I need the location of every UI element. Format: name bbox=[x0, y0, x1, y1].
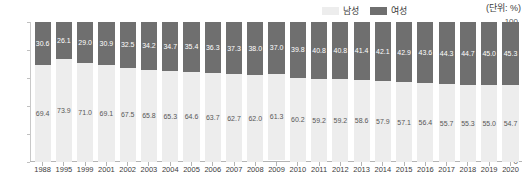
stacked-bar[interactable]: 37.362.7 bbox=[226, 22, 242, 162]
stacked-bar[interactable]: 26.173.9 bbox=[56, 22, 72, 162]
stacked-bar[interactable]: 41.458.6 bbox=[354, 22, 370, 162]
bar-segment-female[interactable]: 39.8 bbox=[290, 22, 306, 78]
bar-segment-male[interactable]: 71.0 bbox=[77, 63, 93, 162]
stacked-bar[interactable]: 42.157.9 bbox=[375, 22, 391, 162]
bar-segment-male[interactable]: 56.4 bbox=[417, 83, 433, 162]
bar-segment-female[interactable]: 38.0 bbox=[247, 22, 263, 75]
bar-segment-male[interactable]: 62.7 bbox=[226, 74, 242, 162]
bar-slot[interactable]: 45.354.7 bbox=[500, 22, 521, 162]
bar-segment-female[interactable]: 44.3 bbox=[439, 22, 455, 84]
stacked-bar[interactable]: 42.957.1 bbox=[396, 22, 412, 162]
bar-segment-female[interactable]: 44.7 bbox=[460, 22, 476, 85]
x-axis-tick-label: 2014 bbox=[372, 166, 393, 174]
plot-area: 020406080100 30.669.426.173.929.071.030.… bbox=[30, 22, 522, 162]
bar-segment-male[interactable]: 57.9 bbox=[375, 81, 391, 162]
stacked-bar[interactable]: 38.062.0 bbox=[247, 22, 263, 162]
bar-segment-female[interactable]: 30.9 bbox=[98, 22, 114, 65]
bar-slot[interactable]: 38.062.0 bbox=[245, 22, 266, 162]
bar-segment-female[interactable]: 29.0 bbox=[77, 22, 93, 63]
bar-segment-male[interactable]: 55.7 bbox=[439, 84, 455, 162]
stacked-bar[interactable]: 40.859.2 bbox=[332, 22, 348, 162]
bar-segment-male[interactable]: 73.9 bbox=[56, 59, 72, 162]
bar-segment-female[interactable]: 35.4 bbox=[183, 22, 199, 72]
bar-segment-male[interactable]: 59.2 bbox=[311, 79, 327, 162]
bar-segment-female[interactable]: 34.7 bbox=[162, 22, 178, 71]
bar-segment-male[interactable]: 65.3 bbox=[162, 71, 178, 162]
bar-slot[interactable]: 44.355.7 bbox=[436, 22, 457, 162]
bar-slot[interactable]: 40.859.2 bbox=[308, 22, 329, 162]
stacked-bar[interactable]: 32.567.5 bbox=[120, 22, 136, 162]
bar-slot[interactable]: 40.859.2 bbox=[330, 22, 351, 162]
stacked-bar[interactable]: 44.755.3 bbox=[460, 22, 476, 162]
bar-slot[interactable]: 30.969.1 bbox=[96, 22, 117, 162]
stacked-bar[interactable]: 40.859.2 bbox=[311, 22, 327, 162]
stacked-bar[interactable]: 35.464.6 bbox=[183, 22, 199, 162]
bar-segment-female[interactable]: 45.0 bbox=[481, 22, 497, 85]
bar-segment-female[interactable]: 40.8 bbox=[311, 22, 327, 79]
bar-segment-male[interactable]: 62.0 bbox=[247, 75, 263, 162]
bar-segment-male[interactable]: 55.0 bbox=[481, 85, 497, 162]
bar-segment-female[interactable]: 42.9 bbox=[396, 22, 412, 82]
bar-segment-male[interactable]: 57.1 bbox=[396, 82, 412, 162]
bar-segment-male[interactable]: 60.2 bbox=[290, 78, 306, 162]
bar-segment-female[interactable]: 34.2 bbox=[141, 22, 157, 70]
bar-slot[interactable]: 35.464.6 bbox=[181, 22, 202, 162]
bar-segment-male[interactable]: 61.3 bbox=[268, 74, 284, 160]
bar-segment-female[interactable]: 26.1 bbox=[56, 22, 72, 59]
stacked-bar[interactable]: 45.055.0 bbox=[481, 22, 497, 162]
stacked-bar[interactable]: 29.071.0 bbox=[77, 22, 93, 162]
bar-segment-female[interactable]: 41.4 bbox=[354, 22, 370, 80]
stacked-bar[interactable]: 30.669.4 bbox=[35, 22, 51, 162]
stacked-bar[interactable]: 36.363.7 bbox=[205, 22, 221, 162]
stacked-bar[interactable]: 45.354.7 bbox=[502, 22, 518, 162]
stacked-bar[interactable]: 34.265.8 bbox=[141, 22, 157, 162]
bar-value-label-female: 37.3 bbox=[227, 45, 241, 52]
bar-slot[interactable]: 43.656.4 bbox=[415, 22, 436, 162]
bar-slot[interactable]: 37.362.7 bbox=[223, 22, 244, 162]
bar-value-label-male: 71.0 bbox=[78, 109, 92, 116]
bar-slot[interactable]: 34.765.3 bbox=[160, 22, 181, 162]
bar-segment-male[interactable]: 55.3 bbox=[460, 85, 476, 162]
bar-slot[interactable]: 37.061.3 bbox=[266, 22, 287, 162]
bar-slot[interactable]: 32.567.5 bbox=[117, 22, 138, 162]
bar-segment-female[interactable]: 37.0 bbox=[268, 22, 284, 74]
stacked-bar[interactable]: 34.765.3 bbox=[162, 22, 178, 162]
bar-segment-male[interactable]: 64.6 bbox=[183, 72, 199, 162]
bar-value-label-male: 69.1 bbox=[100, 110, 114, 117]
bar-slot[interactable]: 29.071.0 bbox=[75, 22, 96, 162]
bar-segment-female[interactable]: 40.8 bbox=[332, 22, 348, 79]
bar-value-label-female: 34.7 bbox=[163, 43, 177, 50]
bar-slot[interactable]: 45.055.0 bbox=[479, 22, 500, 162]
bar-slot[interactable]: 42.157.9 bbox=[372, 22, 393, 162]
bar-segment-male[interactable]: 69.1 bbox=[98, 65, 114, 162]
bar-segment-male[interactable]: 54.7 bbox=[502, 85, 518, 162]
bar-segment-female[interactable]: 42.1 bbox=[375, 22, 391, 81]
bar-segment-female[interactable]: 32.5 bbox=[120, 22, 136, 68]
bar-segment-female[interactable]: 36.3 bbox=[205, 22, 221, 73]
bar-slot[interactable]: 42.957.1 bbox=[394, 22, 415, 162]
bar-value-label-male: 59.2 bbox=[334, 117, 348, 124]
bar-segment-male[interactable]: 63.7 bbox=[205, 73, 221, 162]
bar-slot[interactable]: 41.458.6 bbox=[351, 22, 372, 162]
bar-value-label-male: 55.7 bbox=[440, 120, 454, 127]
bar-segment-male[interactable]: 69.4 bbox=[35, 65, 51, 162]
bar-segment-male[interactable]: 67.5 bbox=[120, 68, 136, 163]
bar-segment-female[interactable]: 30.6 bbox=[35, 22, 51, 65]
bar-segment-male[interactable]: 65.8 bbox=[141, 70, 157, 162]
bar-segment-male[interactable]: 58.6 bbox=[354, 80, 370, 162]
bar-slot[interactable]: 26.173.9 bbox=[53, 22, 74, 162]
bar-segment-male[interactable]: 59.2 bbox=[332, 79, 348, 162]
bar-slot[interactable]: 39.860.2 bbox=[287, 22, 308, 162]
stacked-bar[interactable]: 37.061.3 bbox=[268, 22, 284, 162]
bar-slot[interactable]: 30.669.4 bbox=[32, 22, 53, 162]
stacked-bar[interactable]: 43.656.4 bbox=[417, 22, 433, 162]
stacked-bar[interactable]: 44.355.7 bbox=[439, 22, 455, 162]
bar-slot[interactable]: 34.265.8 bbox=[138, 22, 159, 162]
bar-slot[interactable]: 44.755.3 bbox=[457, 22, 478, 162]
stacked-bar[interactable]: 39.860.2 bbox=[290, 22, 306, 162]
stacked-bar[interactable]: 30.969.1 bbox=[98, 22, 114, 162]
bar-segment-female[interactable]: 37.3 bbox=[226, 22, 242, 74]
bar-segment-female[interactable]: 43.6 bbox=[417, 22, 433, 83]
bar-segment-female[interactable]: 45.3 bbox=[502, 22, 518, 85]
bar-slot[interactable]: 36.363.7 bbox=[202, 22, 223, 162]
